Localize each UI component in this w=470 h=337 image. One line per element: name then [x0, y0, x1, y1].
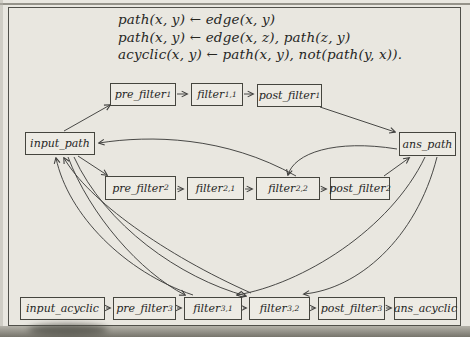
- node-post-filter-2: post_filter2: [330, 177, 390, 200]
- node-label: ans_path: [403, 138, 453, 151]
- rule-3: acyclic(x, y) ← path(x, y), not(path(y, …: [118, 46, 402, 64]
- node-filter-2-1: filter2,1: [187, 177, 244, 200]
- edge-filter_2_2-input_path: [99, 139, 296, 176]
- node-ans-path: ans_path: [399, 132, 456, 156]
- node-label: input_acyclic: [26, 302, 99, 315]
- node-label: pre_filter: [116, 302, 167, 315]
- node-filter-2-2: filter2,2: [256, 177, 320, 200]
- rule-2: path(x, y) ← edge(x, z), path(z, y): [118, 29, 402, 47]
- node-pre-filter-3: pre_filter3: [113, 297, 176, 320]
- node-label: ans_acyclic: [394, 302, 457, 315]
- node-label: filter: [197, 88, 224, 101]
- scanned-figure: path(x, y) ← edge(x, y) path(x, y) ← edg…: [0, 0, 470, 337]
- node-filter-3-2: filter3,2: [249, 297, 310, 320]
- edge-input_path-pre_filter_2: [78, 156, 107, 175]
- edge-ans_path-filter_2_2: [288, 146, 397, 175]
- node-pre-filter-2: pre_filter2: [105, 176, 176, 200]
- node-label: pre_filter: [115, 88, 166, 101]
- edge-post_filter_2-ans_path: [384, 158, 409, 176]
- node-label: pre_filter: [112, 182, 163, 195]
- node-label: input_path: [30, 137, 90, 150]
- node-post-filter-3: post_filter3: [318, 297, 385, 320]
- scan-artifact-bottom-blob: [28, 324, 108, 336]
- node-post-filter-1: post_filter1: [257, 84, 322, 107]
- node-label: post_filter: [259, 89, 315, 102]
- node-label: post_filter: [329, 182, 385, 195]
- node-input-path: input_path: [25, 132, 95, 155]
- node-label: filter: [196, 182, 223, 195]
- node-label: filter: [268, 182, 295, 195]
- node-filter-3-1: filter3,1: [184, 297, 242, 320]
- rule-1: path(x, y) ← edge(x, y): [118, 11, 402, 29]
- edge-input_path-pre_filter_1: [64, 105, 110, 131]
- datalog-rules: path(x, y) ← edge(x, y) path(x, y) ← edg…: [118, 11, 402, 64]
- node-pre-filter-1: pre_filter1: [110, 83, 176, 106]
- node-label: filter: [260, 302, 287, 315]
- node-label: filter: [193, 302, 220, 315]
- node-ans-acyclic: ans_acyclic: [394, 297, 457, 320]
- node-label: post_filter: [321, 302, 377, 315]
- node-filter-1-1: filter1,1: [191, 83, 243, 106]
- edge-post_filter_1-ans_path: [320, 107, 395, 132]
- node-input-acyclic: input_acyclic: [20, 297, 105, 320]
